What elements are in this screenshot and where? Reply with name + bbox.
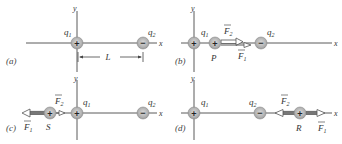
plus-sign-icon: + bbox=[191, 109, 196, 119]
minus-sign-icon: − bbox=[257, 108, 262, 118]
charge-q2: − q2 bbox=[255, 27, 275, 49]
y-axis-label: y bbox=[190, 4, 195, 13]
f1-label: F1 bbox=[317, 123, 327, 134]
x-axis-label: x bbox=[333, 39, 338, 48]
plus-sign-icon: + bbox=[74, 109, 79, 119]
y-axis-label: y bbox=[190, 74, 195, 83]
x-axis-label: x bbox=[158, 109, 163, 118]
y-axis-label: y bbox=[72, 4, 77, 13]
f2-label: F2 bbox=[280, 96, 290, 107]
f2-label: F2 bbox=[223, 26, 233, 37]
p-label: P bbox=[210, 53, 217, 63]
panel-label: (d) bbox=[175, 123, 186, 133]
minus-sign-icon: − bbox=[140, 108, 145, 118]
q1-label: q1 bbox=[201, 97, 209, 108]
force-f1-arrow bbox=[22, 109, 45, 117]
test-charge-p: + P bbox=[209, 37, 221, 63]
force-f2-arrow bbox=[56, 111, 65, 116]
panel-b: y x + q1 + P F2 F1 − q2 (b) bbox=[175, 4, 338, 72]
test-charge-s: + S bbox=[44, 107, 56, 132]
q1-label: q1 bbox=[64, 27, 72, 38]
distance-dimension: L bbox=[78, 52, 143, 62]
r-label: R bbox=[295, 123, 302, 133]
panel-d: y x + q1 − q2 + R F2 F1 bbox=[175, 74, 338, 140]
minus-sign-icon: − bbox=[258, 38, 263, 48]
force-f1-arrow bbox=[306, 110, 325, 117]
charge-q2: − q2 bbox=[137, 27, 156, 49]
force-f2-arrow bbox=[221, 38, 243, 46]
q1-label: q1 bbox=[83, 97, 91, 108]
coulomb-force-diagram: y x + q1 − q2 L (a) y x + bbox=[0, 0, 342, 144]
q2-label: q2 bbox=[148, 97, 156, 108]
charge-q1: + q1 bbox=[188, 97, 209, 119]
f1-label: F1 bbox=[23, 122, 33, 133]
charge-q2: − q2 bbox=[137, 97, 156, 119]
plus-sign-icon: + bbox=[212, 39, 217, 49]
charge-q1: + q1 bbox=[64, 27, 83, 49]
panel-label: (b) bbox=[175, 56, 186, 66]
panel-label: (c) bbox=[6, 123, 16, 133]
x-axis-label: x bbox=[333, 109, 338, 118]
f2-label: F2 bbox=[54, 96, 64, 107]
q2-label: q2 bbox=[267, 27, 275, 38]
charge-q1: + q1 bbox=[188, 27, 209, 49]
distance-label: L bbox=[104, 52, 110, 62]
minus-sign-icon: − bbox=[140, 38, 145, 48]
panel-label: (a) bbox=[6, 56, 17, 66]
plus-sign-icon: + bbox=[47, 109, 52, 119]
plus-sign-icon: + bbox=[191, 39, 196, 49]
panel-a: y x + q1 − q2 L (a) bbox=[6, 4, 163, 72]
q2-label: q2 bbox=[249, 97, 257, 108]
plus-sign-icon: + bbox=[74, 39, 79, 49]
plus-sign-icon: + bbox=[297, 109, 302, 119]
test-charge-r: + R bbox=[294, 107, 306, 133]
q1-label: q1 bbox=[201, 27, 209, 38]
charge-q2: − q2 bbox=[249, 97, 266, 119]
f1-label: F1 bbox=[237, 51, 247, 62]
y-axis-label: y bbox=[73, 74, 78, 83]
force-f2-arrow bbox=[275, 110, 295, 117]
x-axis-label: x bbox=[158, 39, 163, 48]
q2-label: q2 bbox=[148, 27, 156, 38]
charge-q1: + q1 bbox=[71, 97, 91, 119]
s-label: S bbox=[46, 122, 51, 132]
panel-c: y x + S F2 F1 + q1 − q2 ( bbox=[6, 74, 163, 140]
